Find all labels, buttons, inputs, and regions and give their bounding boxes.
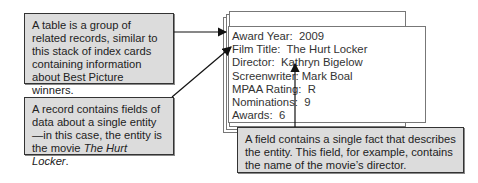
arrow-record [172, 47, 231, 97]
arrows [0, 0, 478, 183]
